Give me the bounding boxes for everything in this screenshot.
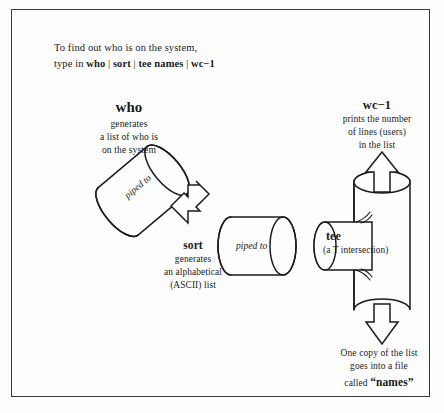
cmd-who: who [86, 58, 105, 69]
intro-sep-1: | [105, 58, 113, 69]
intro-paragraph: To find out who is on the system,type in… [54, 40, 215, 73]
cmd-tee-names: tee names [139, 58, 184, 69]
sort-heading: sort [152, 238, 234, 253]
pipe-label-2: piped to [236, 240, 267, 251]
who-description: generates a list of who is on the system [59, 117, 199, 157]
tee-description: (a T intersection) [323, 244, 388, 256]
cmd-sort: sort [113, 58, 131, 69]
wc-heading: wc−1 [312, 97, 442, 114]
who-heading: who [74, 98, 184, 118]
intro-sep-2: | [131, 58, 139, 69]
figure-frame: To find out who is on the system,type in… [11, 9, 430, 397]
output-line2: goes into a file [350, 361, 408, 371]
intro-sep-3: | [183, 58, 191, 69]
output-caption: One copy of the listgoes into a filecall… [309, 347, 444, 390]
tee-heading: tee [326, 229, 341, 245]
cmd-wc-l: wc−1 [191, 58, 215, 69]
arrow-down-to-file [366, 304, 398, 344]
output-line3-prefix: called [344, 378, 370, 388]
intro-line1: To find out who is on the system, [54, 42, 197, 53]
wc-description: prints the number of lines (users) in th… [307, 113, 444, 152]
sort-description: generates an alphabetical (ASCII) list [140, 253, 246, 292]
output-line1: One copy of the list [341, 348, 418, 358]
output-filename: “names” [370, 376, 414, 388]
intro-line2-prefix: type in [54, 58, 86, 69]
figure-page: To find out who is on the system,type in… [0, 0, 444, 413]
